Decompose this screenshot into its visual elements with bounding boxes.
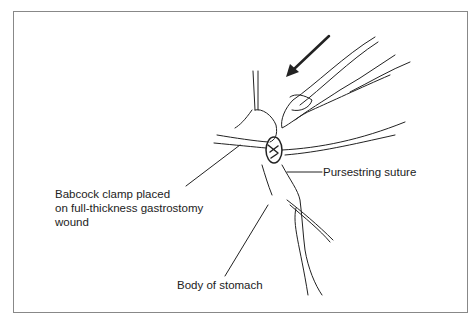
babcock-leader xyxy=(186,145,240,186)
babcock-label-line2: on full-thickness gastrostomy xyxy=(55,201,203,215)
stomach-illustration xyxy=(0,0,476,323)
body-of-stomach-label: Body of stomach xyxy=(177,278,263,292)
babcock-label-line3: wound xyxy=(55,215,89,229)
babcock-label-line1: Babcock clamp placed xyxy=(55,187,170,201)
body-leader xyxy=(225,205,268,276)
arrow-icon xyxy=(286,36,329,77)
pursestring-label: Pursestring suture xyxy=(323,165,416,179)
